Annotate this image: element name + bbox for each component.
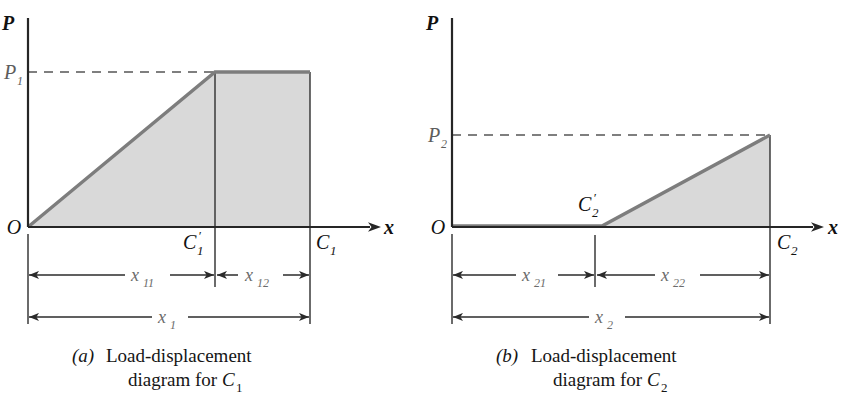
- panel-b-c2-symbol: C: [777, 231, 791, 253]
- panel-b-caption-line2-prefix: diagram for: [553, 369, 643, 390]
- panel-b-caption-line2-subscript: 2: [661, 380, 668, 395]
- panel-a-c1-prime-symbol: C: [183, 231, 197, 253]
- panel-b-c2-prime-subscript: 2: [592, 205, 599, 220]
- panel-a-c1-prime-mark: ′: [198, 228, 201, 243]
- load-displacement-figure: P x O P 1 C 1 ′ C 1: [0, 0, 849, 397]
- panel-b-dim-x21: x 21: [453, 265, 594, 290]
- panel-a-dim-x11: x 11: [29, 265, 214, 290]
- panel-b-dim-x21-symbol: x: [521, 265, 530, 285]
- panel-b-dim-x2: x 2: [453, 307, 769, 332]
- panel-b-dim-x22-subscript: 22: [673, 276, 685, 290]
- panel-a-origin-label: O: [7, 216, 21, 238]
- panel-a-c1-label: C 1: [316, 231, 337, 258]
- panel-b-dim-x2-subscript: 2: [607, 318, 613, 332]
- panel-a-caption-line2-prefix: diagram for: [128, 369, 218, 390]
- panel-a-c1-subscript: 1: [330, 243, 337, 258]
- panel-a-caption: (a) Load-displacement diagram for C 1: [72, 345, 252, 395]
- panel-a: P x O P 1 C 1 ′ C 1: [1, 12, 394, 395]
- panel-a-dim-x1-symbol: x: [157, 307, 166, 327]
- panel-a-dim-x1: x 1: [29, 307, 309, 332]
- panel-b-c2-prime-symbol: C: [578, 193, 592, 215]
- panel-b-p2-subscript: 2: [441, 137, 447, 151]
- panel-b-dim-x2-symbol: x: [594, 307, 603, 327]
- panel-b-x-axis-label: x: [827, 216, 838, 238]
- panel-b-dim-x21-subscript: 21: [534, 276, 546, 290]
- panel-a-p1-subscript: 1: [17, 74, 23, 88]
- panel-a-dim-x12-subscript: 12: [257, 276, 269, 290]
- panel-b-y-axis-label: P: [425, 12, 439, 34]
- panel-a-dim-x1-subscript: 1: [170, 318, 176, 332]
- panel-b-p2-label: P 2: [427, 124, 447, 151]
- panel-a-dim-x11-symbol: x: [130, 265, 139, 285]
- panel-a-dim-x12: x 12: [217, 265, 309, 290]
- panel-a-caption-line2-subscript: 1: [236, 380, 243, 395]
- panel-b-c2-label: C 2: [777, 231, 798, 258]
- figure-root: P x O P 1 C 1 ′ C 1: [0, 0, 849, 397]
- panel-b: P x O P 2 C 2 ′ C 2: [425, 12, 838, 395]
- panel-b-caption-line2-symbol: C: [647, 369, 660, 390]
- panel-a-x-axis-label: x: [383, 216, 394, 238]
- panel-b-c2-prime-label: C 2 ′: [578, 190, 599, 220]
- panel-b-c2-subscript: 2: [791, 243, 798, 258]
- panel-a-c1-prime-subscript: 1: [197, 243, 204, 258]
- panel-a-caption-marker: (a): [72, 345, 94, 367]
- panel-a-dim-x11-subscript: 11: [143, 276, 154, 290]
- panel-b-caption-marker: (b): [496, 345, 518, 367]
- panel-b-origin-label: O: [431, 216, 445, 238]
- panel-a-caption-line1: Load-displacement: [106, 345, 252, 366]
- panel-a-y-axis-label: P: [1, 12, 15, 34]
- panel-a-c1-symbol: C: [316, 231, 330, 253]
- panel-a-dim-x12-symbol: x: [244, 265, 253, 285]
- panel-b-p2-symbol: P: [427, 124, 440, 146]
- panel-b-dim-x22: x 22: [597, 265, 769, 290]
- panel-b-dim-x22-symbol: x: [660, 265, 669, 285]
- panel-b-caption: (b) Load-displacement diagram for C 2: [496, 345, 677, 395]
- panel-a-p1-label: P 1: [3, 61, 23, 88]
- panel-a-shaded-area: [28, 72, 310, 227]
- panel-b-caption-line1: Load-displacement: [531, 345, 677, 366]
- panel-b-c2-prime-mark: ′: [593, 190, 596, 205]
- panel-a-c1-prime-label: C 1 ′: [183, 228, 204, 258]
- panel-a-p1-symbol: P: [3, 61, 16, 83]
- panel-a-caption-line2-symbol: C: [222, 369, 235, 390]
